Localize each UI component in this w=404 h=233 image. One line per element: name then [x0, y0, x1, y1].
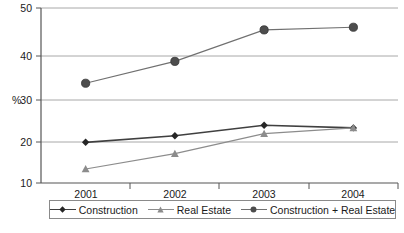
triangle-marker-icon [148, 204, 174, 216]
x-tick-label-2001: 2001 [74, 188, 98, 200]
series-layer [82, 23, 358, 172]
legend-label-combined: Construction + Real Estate [270, 204, 395, 216]
y-tick-label-10: 10 [20, 177, 32, 189]
data-point [349, 23, 357, 31]
x-tick-label-2003: 2003 [252, 188, 276, 200]
data-point [260, 122, 267, 129]
legend-item-construction-plus-real-estate[interactable]: Construction + Real Estate [241, 204, 395, 216]
data-point [82, 139, 89, 146]
y-tick-marks [36, 8, 41, 183]
y-tick-label-50: 50 [20, 2, 32, 14]
data-point [171, 57, 179, 65]
y-tick-label-30: 30 [20, 94, 32, 106]
diamond-marker-icon [50, 204, 76, 216]
series-construction-real-estate [82, 23, 358, 87]
legend-label-real-estate: Real Estate [177, 204, 231, 216]
line-chart: 50 40 30 20 10 % 2001 2002 2003 2004 Con… [0, 0, 404, 233]
chart-plot-area: 50 40 30 20 10 % 2001 2002 2003 2004 [0, 0, 404, 233]
legend-label-construction: Construction [79, 204, 138, 216]
y-tick-label-40: 40 [20, 50, 32, 62]
legend-item-construction[interactable]: Construction [50, 204, 138, 216]
data-point [82, 79, 90, 87]
data-point [171, 132, 178, 139]
chart-legend: Construction Real Estate Construction + … [49, 200, 396, 219]
y-tick-label-20: 20 [20, 136, 32, 148]
y-axis-title: % [12, 94, 21, 106]
legend-item-real-estate[interactable]: Real Estate [148, 204, 231, 216]
x-tick-label-2002: 2002 [163, 188, 187, 200]
circle-marker-icon [241, 204, 267, 216]
data-point [260, 26, 268, 34]
x-tick-label-2004: 2004 [341, 188, 365, 200]
